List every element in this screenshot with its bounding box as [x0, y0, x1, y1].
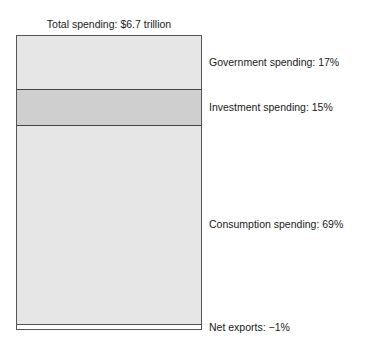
- segment-government-spending: [17, 36, 201, 90]
- segment-consumption-spending: [17, 126, 201, 325]
- segment-investment-spending: [17, 90, 201, 126]
- chart-title: Total spending: $6.7 trillion: [0, 18, 218, 30]
- label-investment-spending: Investment spending: 15%: [209, 101, 333, 113]
- label-government-spending: Government spending: 17%: [209, 56, 339, 68]
- label-consumption-spending: Consumption spending: 69%: [209, 218, 343, 230]
- stacked-bar: [16, 35, 202, 324]
- segment-net-exports: [16, 324, 202, 330]
- label-net-exports: Net exports: −1%: [209, 321, 290, 333]
